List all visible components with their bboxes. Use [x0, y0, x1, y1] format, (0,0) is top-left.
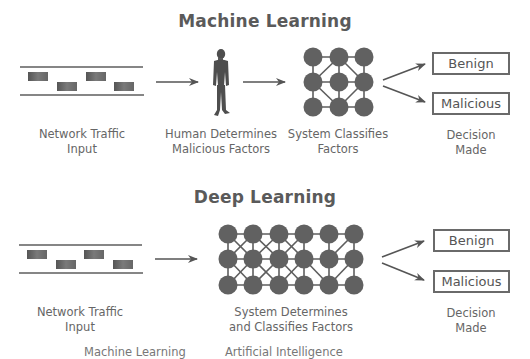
step-label-human: Human Determines Malicious Factors: [158, 127, 284, 157]
label-line: Input: [22, 142, 142, 157]
arrow-up-icon: [383, 64, 425, 80]
network-traffic-icon: [20, 67, 144, 95]
outcome-benign: Benign: [433, 229, 510, 252]
label-line: Human Determines: [158, 127, 284, 142]
label-line: Input: [20, 320, 140, 335]
section-title-machine-learning: Machine Learning: [0, 11, 530, 31]
step-label-network-traffic: Network Traffic Input: [22, 127, 142, 157]
label-line: System Classifies: [282, 127, 394, 142]
label-line: Network Traffic: [22, 127, 142, 142]
step-label-system-classifies: System Classifies Factors: [282, 127, 394, 157]
neural-network-6x3-icon: [219, 225, 364, 295]
label-line: Decision: [436, 306, 506, 321]
step-label-system-determines: System Determines and Classifies Factors: [216, 305, 366, 335]
outcome-malicious: Malicious: [432, 92, 510, 115]
step-label-network-traffic: Network Traffic Input: [20, 305, 140, 335]
step-label-decision: Decision Made: [436, 128, 506, 158]
human-icon: [213, 49, 230, 116]
section-title-deep-learning: Deep Learning: [0, 187, 530, 207]
network-traffic-icon: [19, 245, 143, 273]
label-line: Factors: [282, 142, 394, 157]
step-label-decision: Decision Made: [436, 306, 506, 336]
neural-network-3x3-icon: [304, 48, 374, 117]
footer-cut-text-right: Artificial Intelligence: [225, 345, 343, 359]
label-line: Made: [436, 143, 506, 158]
label-line: Network Traffic: [20, 305, 140, 320]
label-line: Decision: [436, 128, 506, 143]
footer-cut-text-left: Machine Learning: [84, 345, 186, 359]
label-line: Made: [436, 321, 506, 336]
outcome-benign: Benign: [432, 52, 510, 75]
arrow-down-icon: [383, 86, 425, 102]
label-line: Malicious Factors: [158, 142, 284, 157]
label-line: System Determines: [216, 305, 366, 320]
arrow-up-icon: [382, 241, 424, 257]
outcome-malicious: Malicious: [433, 270, 510, 293]
label-line: and Classifies Factors: [216, 320, 366, 335]
arrow-down-icon: [382, 263, 424, 280]
